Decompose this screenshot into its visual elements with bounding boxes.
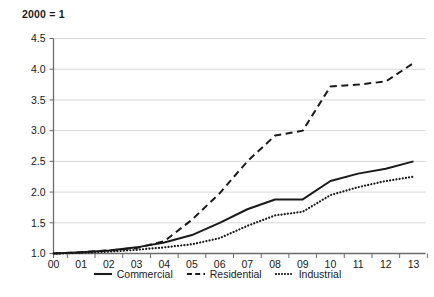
legend-swatch-solid-icon [93, 269, 113, 279]
y-axis: 1.01.52.02.53.03.54.04.5 [31, 32, 54, 259]
legend-label-industrial: Industrial [299, 269, 342, 280]
chart-container: 2000 = 1 1.01.52.02.53.03.54.04.5 000102… [0, 0, 434, 297]
y-tick-label: 4.5 [31, 32, 46, 44]
y-tick-label: 1.5 [31, 217, 46, 229]
y-tick-label: 1.0 [31, 247, 46, 259]
y-tick-label: 3.5 [31, 94, 46, 106]
legend-item-commercial: Commercial [93, 269, 173, 280]
series-line-commercial [54, 161, 414, 253]
chart-legend: Commercial Residential Industrial [0, 269, 434, 280]
gridlines-group [54, 39, 426, 223]
series-line-residential [54, 63, 414, 253]
y-tick-label: 3.0 [31, 124, 46, 136]
y-tick-label: 2.0 [31, 186, 46, 198]
legend-item-residential: Residential [186, 269, 262, 280]
chart-plot-area: 1.01.52.02.53.03.54.04.5 000102030405060… [0, 0, 434, 297]
legend-swatch-dotted-icon [275, 269, 295, 279]
y-tick-label: 2.5 [31, 155, 46, 167]
data-series-group [54, 63, 414, 253]
legend-item-industrial: Industrial [275, 269, 342, 280]
legend-label-residential: Residential [210, 269, 262, 280]
legend-label-commercial: Commercial [117, 269, 173, 280]
y-tick-label: 4.0 [31, 63, 46, 75]
legend-swatch-dashed-icon [186, 269, 206, 279]
